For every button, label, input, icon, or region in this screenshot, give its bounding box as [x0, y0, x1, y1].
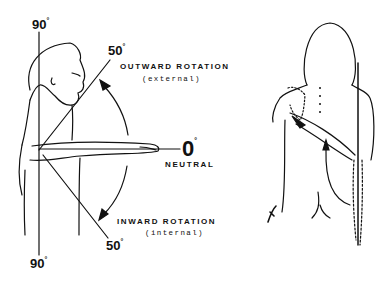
- label-90-bottom: 90°: [30, 257, 47, 270]
- label-50-external: 50°: [108, 44, 125, 57]
- inward-rotation-title: INWARD ROTATION: [117, 218, 216, 226]
- label-90-top: 90°: [32, 18, 49, 31]
- label-0-neutral: 0°: [182, 138, 197, 160]
- right-figure-back-view: [268, 23, 374, 245]
- outward-rotation-subtitle: (external): [142, 76, 201, 84]
- artist-signature: [268, 206, 276, 222]
- neutral-label: NEUTRAL: [165, 161, 214, 169]
- label-50-internal: 50°: [106, 239, 123, 252]
- diagram-canvas: 90° 50° OUTWARD ROTATION (external) 0° N…: [0, 0, 390, 287]
- inward-rotation-subtitle: (internal): [145, 230, 204, 238]
- outward-rotation-title: OUTWARD ROTATION: [120, 63, 230, 71]
